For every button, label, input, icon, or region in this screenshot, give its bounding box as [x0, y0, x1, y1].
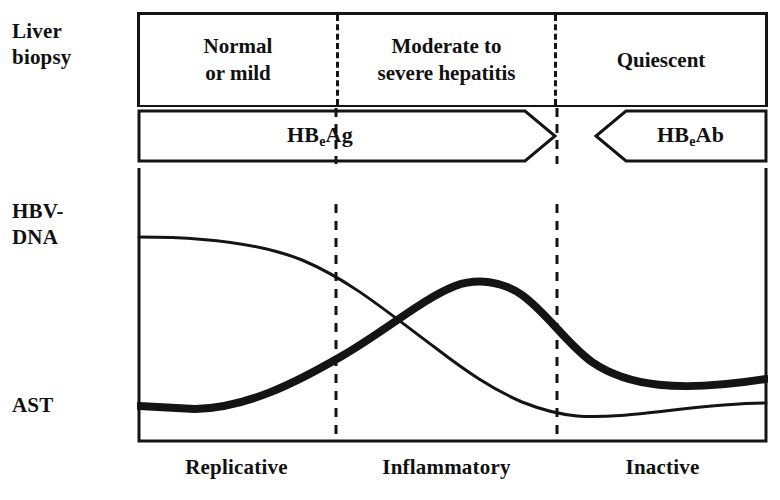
- chart-svg: [137, 164, 768, 444]
- liver-biopsy-row: Normal or mild Moderate to severe hepati…: [137, 12, 768, 107]
- marker-level-chart: [137, 164, 768, 444]
- hbeag-label-subscript: e: [319, 134, 325, 149]
- serology-marker-row: HBeAg HBeAb: [137, 108, 768, 164]
- hbeab-label: HBeAb: [657, 122, 724, 148]
- phase-label-replicative: Replicative: [137, 455, 336, 480]
- ast-curve: [139, 282, 766, 409]
- figure-canvas: Liver biopsy HBV- DNA AST Normal or mild…: [0, 0, 780, 500]
- row-label-hbv-dna: HBV- DNA: [12, 198, 64, 250]
- biopsy-cell-moderate-to-severe-hepatitis: Moderate to severe hepatitis: [336, 15, 557, 105]
- hbeab-label-subscript: e: [689, 134, 695, 149]
- hbeab-label-prefix: HB: [657, 122, 689, 147]
- hbeag-label-suffix: Ag: [326, 122, 353, 147]
- hbeab-label-suffix: Ab: [696, 122, 725, 147]
- hbeag-label: HBeAg: [287, 122, 353, 148]
- phase-label-inactive: Inactive: [557, 455, 768, 480]
- phase-label-inflammatory: Inflammatory: [336, 455, 557, 480]
- row-label-ast: AST: [12, 392, 53, 418]
- row-label-liver-biopsy: Liver biopsy: [12, 18, 72, 70]
- biopsy-cell-quiescent: Quiescent: [557, 15, 765, 105]
- hbeag-label-prefix: HB: [287, 122, 319, 147]
- biopsy-cell-normal-or-mild: Normal or mild: [140, 15, 336, 105]
